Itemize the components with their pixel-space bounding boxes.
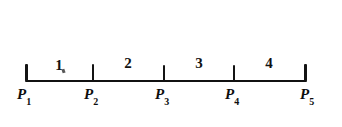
point-label-p1-subscript: 1 — [26, 96, 31, 107]
point-label-p1-letter: P — [17, 86, 26, 102]
point-label-p1: P1 — [17, 87, 31, 105]
point-label-p3: P3 — [155, 87, 169, 105]
point-label-p4-letter: P — [225, 86, 234, 102]
tick-mark-p4 — [233, 65, 235, 81]
tick-mark-p5 — [304, 64, 307, 81]
point-label-p2: P2 — [84, 87, 98, 105]
point-label-p3-letter: P — [155, 86, 164, 102]
tick-mark-p1 — [25, 64, 28, 81]
point-label-p5: P5 — [300, 87, 314, 105]
point-label-p2-letter: P — [84, 86, 93, 102]
segment-label-1: 1 — [47, 58, 71, 73]
segment-label-3: 3 — [187, 56, 211, 71]
segment-label-4: 4 — [257, 56, 281, 71]
point-label-p5-subscript: 5 — [309, 96, 314, 107]
point-label-p5-letter: P — [300, 86, 309, 102]
point-label-p3-subscript: 3 — [164, 96, 169, 107]
segmented-number-line-figure: 1 2 3 4 P1 P2 P3 P4 P5 — [0, 0, 342, 127]
point-label-p2-subscript: 2 — [93, 96, 98, 107]
tick-mark-p3 — [163, 65, 165, 81]
segment-label-2: 2 — [116, 56, 140, 71]
axis-line — [25, 80, 307, 82]
tick-mark-p2 — [92, 64, 94, 81]
point-label-p4: P4 — [225, 87, 239, 105]
point-label-p4-subscript: 4 — [234, 96, 239, 107]
